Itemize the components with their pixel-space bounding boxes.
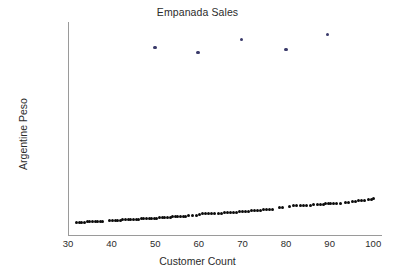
data-point	[339, 202, 342, 205]
data-point	[281, 206, 284, 209]
plot-area	[68, 22, 382, 235]
outlier-data-point	[153, 46, 157, 50]
scatter-chart-figure: Empanada Sales Argentine Peso Customer C…	[0, 0, 395, 275]
x-tick-label: 60	[179, 238, 219, 249]
y-axis-label: Argentine Peso	[17, 59, 29, 209]
data-point	[288, 205, 291, 208]
data-point	[101, 220, 104, 223]
data-point	[335, 202, 338, 205]
outlier-data-point	[196, 51, 200, 55]
data-point	[191, 214, 194, 217]
data-point	[187, 214, 190, 217]
x-tick-label: 80	[266, 238, 306, 249]
data-point	[295, 204, 298, 207]
data-point	[347, 201, 350, 204]
data-point	[271, 208, 274, 211]
outlier-data-point	[240, 38, 244, 42]
x-tick-label: 70	[222, 238, 262, 249]
x-tick-label: 30	[48, 238, 88, 249]
x-axis-spine	[68, 235, 382, 236]
x-axis-label: Customer Count	[0, 255, 395, 267]
outlier-data-point	[326, 33, 330, 37]
chart-title: Empanada Sales	[0, 6, 395, 18]
outlier-data-point	[284, 48, 288, 52]
x-tick-label: 50	[135, 238, 175, 249]
x-tick-label: 100	[353, 238, 393, 249]
x-tick-label: 40	[92, 238, 132, 249]
x-tick-label: 90	[310, 238, 350, 249]
